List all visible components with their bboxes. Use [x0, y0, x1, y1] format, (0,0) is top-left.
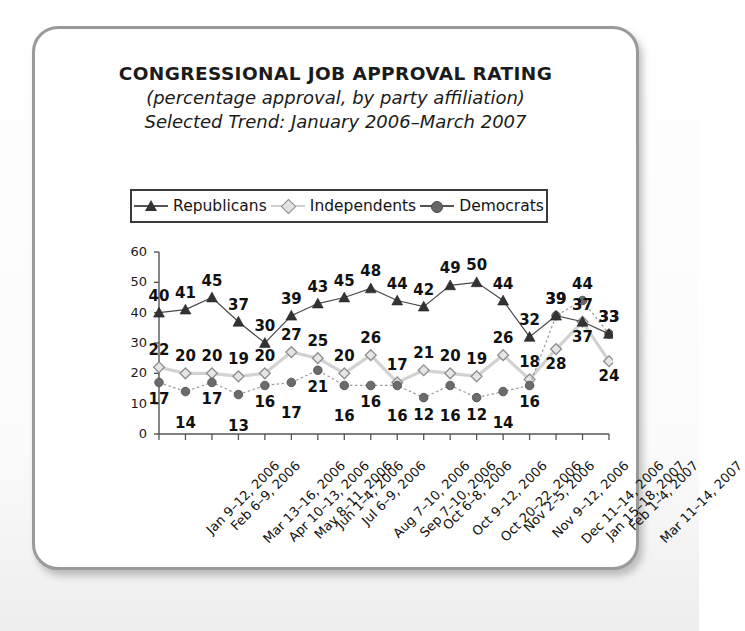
data-point-label: 20: [254, 347, 275, 365]
data-point-label: 41: [175, 284, 196, 302]
y-axis-tick-label: 10: [121, 396, 147, 411]
diamond-marker: [445, 368, 456, 379]
circle-marker: [525, 381, 534, 390]
triangle-marker: [339, 292, 350, 302]
diamond-marker: [207, 368, 218, 379]
data-point-label: 50: [466, 256, 487, 274]
triangle-marker: [365, 283, 376, 293]
circle-marker: [499, 387, 508, 396]
legend-label: Democrats: [459, 197, 544, 215]
data-point-label: 17: [281, 404, 302, 422]
data-point-label: 32: [519, 311, 540, 329]
data-point-label: 39: [546, 290, 567, 308]
chart-subtitle-range: Selected Trend: January 2006–March 2007: [35, 111, 636, 132]
circle-marker: [208, 378, 217, 387]
data-point-label: 48: [360, 262, 381, 280]
circle-marker: [261, 381, 270, 390]
triangle-marker: [207, 292, 218, 302]
legend-item-democrats: Democrats: [420, 197, 544, 215]
data-point-label: 17: [202, 390, 223, 408]
y-axis-tick-label: 60: [121, 244, 147, 259]
circle-marker: [287, 378, 296, 387]
data-point-label: 20: [440, 347, 461, 365]
chart-subtitle: (percentage approval, by party affiliati…: [35, 87, 636, 108]
data-point-label: 44: [572, 275, 593, 293]
data-point-label: 18: [519, 353, 540, 371]
diamond-marker-glyph: [281, 199, 297, 215]
y-axis-tick-label: 0: [121, 426, 147, 441]
data-point-label: 30: [254, 317, 275, 335]
diamond-marker: [180, 368, 191, 379]
diamond-marker: [154, 362, 165, 373]
triangle-marker: [134, 199, 168, 213]
data-point-label: 12: [466, 406, 487, 424]
y-axis-tick-label: 30: [121, 335, 147, 350]
diamond-marker: [418, 365, 429, 376]
data-point-label: 12: [413, 406, 434, 424]
data-point-label: 37: [228, 296, 249, 314]
data-point-label: 49: [440, 259, 461, 277]
data-point-label: 25: [307, 332, 328, 350]
legend-item-republicans: Republicans: [134, 197, 267, 215]
circle-marker: [472, 393, 481, 402]
circle-marker: [340, 381, 349, 390]
data-point-label: 16: [254, 393, 275, 411]
data-point-label: 19: [228, 350, 249, 368]
circle-marker: [314, 366, 323, 375]
data-point-label: 19: [466, 350, 487, 368]
data-point-label: 28: [546, 355, 567, 373]
circle-marker-glyph: [431, 201, 443, 213]
data-point-label: 21: [307, 378, 328, 396]
data-point-label: 45: [202, 272, 223, 290]
triangle-marker: [392, 295, 403, 305]
data-point-label: 44: [387, 275, 408, 293]
data-point-label: 16: [387, 407, 408, 425]
data-point-label: 42: [413, 281, 434, 299]
chart-card: CONGRESSIONAL JOB APPROVAL RATING (perce…: [32, 26, 639, 570]
data-point-label: 43: [307, 278, 328, 296]
circle-marker: [234, 390, 243, 399]
data-point-label: 26: [360, 329, 381, 347]
diamond-marker: [233, 371, 244, 382]
circle-marker: [393, 381, 402, 390]
data-point-label: 44: [493, 275, 514, 293]
triangle-marker: [286, 310, 297, 320]
data-point-label: 21: [413, 344, 434, 362]
legend-label: Republicans: [173, 197, 267, 215]
x-axis-labels: Jan 9–12, 2006Feb 6–9, 2006Mar 13–16, 20…: [113, 454, 633, 604]
data-point-label: 16: [360, 393, 381, 411]
circle-marker: [419, 393, 428, 402]
circle-marker: [446, 381, 455, 390]
circle-marker: [155, 378, 164, 387]
diamond-marker: [271, 199, 305, 213]
y-axis-tick-label: 50: [121, 274, 147, 289]
data-point-label: 17: [387, 356, 408, 374]
data-point-label: 20: [175, 347, 196, 365]
data-point-label: 22: [149, 341, 170, 359]
page-title: CONGRESSIONAL JOB APPROVAL RATING: [35, 63, 636, 84]
data-point-label: 27: [281, 326, 302, 344]
circle-marker: [181, 387, 190, 396]
data-point-label: 16: [519, 393, 540, 411]
plot-area: 0102030405060222020192027252026172120192…: [113, 244, 613, 459]
triangle-marker: [524, 332, 535, 342]
data-point-label: 14: [175, 414, 196, 432]
data-point-label: 13: [228, 417, 249, 435]
data-point-label: 37: [572, 328, 593, 346]
data-point-label: 14: [493, 414, 514, 432]
data-point-label: 33: [599, 308, 620, 326]
circle-marker: [420, 199, 454, 213]
y-axis-tick-label: 40: [121, 305, 147, 320]
data-point-label: 17: [149, 390, 170, 408]
data-point-label: 20: [334, 347, 355, 365]
y-axis-tick-label: 20: [121, 365, 147, 380]
data-point-label: 20: [202, 347, 223, 365]
data-point-label: 45: [334, 272, 355, 290]
circle-marker: [366, 381, 375, 390]
data-point-label: 16: [440, 407, 461, 425]
legend-item-independents: Independents: [271, 197, 416, 215]
triangle-marker: [498, 295, 509, 305]
triangle-marker: [471, 277, 482, 287]
data-point-label: 16: [334, 407, 355, 425]
